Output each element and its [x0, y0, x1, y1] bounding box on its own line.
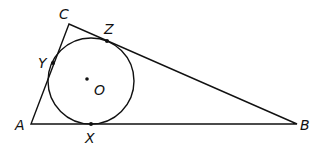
tangent-point-x	[89, 122, 93, 126]
label-c: C	[59, 6, 69, 22]
incircle-triangle-diagram: C Z Y O A X B	[0, 0, 323, 150]
label-b: B	[300, 117, 310, 133]
label-z: Z	[103, 21, 114, 37]
tangent-point-z	[105, 39, 109, 43]
tangent-point-y	[51, 61, 55, 65]
incircle	[48, 38, 134, 124]
label-x: X	[84, 130, 95, 146]
triangle-abc	[31, 24, 297, 124]
label-o: O	[94, 82, 105, 98]
label-a: A	[14, 117, 25, 133]
center-point-o	[85, 77, 89, 81]
label-y: Y	[38, 55, 48, 71]
